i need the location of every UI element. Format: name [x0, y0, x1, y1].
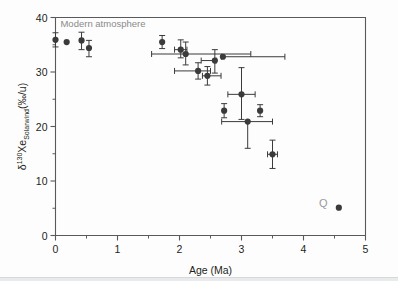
data-point	[221, 104, 227, 118]
data-point	[222, 118, 273, 148]
data-point	[228, 68, 255, 120]
data-point-marker	[212, 57, 218, 63]
data-point-marker	[178, 47, 184, 53]
data-point	[201, 50, 218, 73]
y-axis-title: δ130XeSolarwind(‰/u)	[16, 83, 30, 170]
x-axis-tick-label: 0	[53, 243, 59, 255]
x-axis-tick-label: 4	[301, 243, 307, 255]
data-point-marker	[195, 68, 201, 74]
data-point-marker	[220, 54, 226, 60]
data-point	[268, 140, 278, 168]
data-point	[159, 35, 165, 48]
data-point-marker	[245, 118, 251, 124]
y-axis-tick-label: 40	[36, 12, 48, 24]
y-axis-tick-label: 30	[36, 66, 48, 78]
data-point	[202, 67, 221, 86]
scatter-chart: 012345010203040Age (Ma)δ130XeSolarwind(‰…	[0, 0, 398, 281]
figure-panel: 012345010203040Age (Ma)δ130XeSolarwind(‰…	[0, 0, 398, 281]
data-point-marker	[257, 108, 263, 114]
data-point-marker	[269, 151, 275, 157]
data-point-marker	[86, 45, 92, 51]
data-point	[86, 40, 92, 56]
data-point-marker	[204, 73, 210, 79]
x-axis-title: Age (Ma)	[189, 264, 232, 276]
x-axis-tick-label: 2	[177, 243, 183, 255]
data-point-marker	[78, 37, 84, 43]
data-point	[78, 32, 84, 49]
data-point-marker	[238, 91, 244, 97]
y-axis-tick-label: 20	[36, 121, 48, 133]
data-point	[220, 54, 285, 60]
data-point-marker	[52, 37, 58, 43]
data-point-marker	[64, 39, 70, 45]
y-axis-tick-label: 10	[36, 175, 48, 187]
data-point-marker	[221, 108, 227, 114]
y-axis-tick-label: 0	[42, 230, 48, 242]
data-point	[64, 39, 70, 45]
q-label: Q	[319, 197, 328, 209]
x-axis-tick-label: 3	[239, 243, 245, 255]
data-point-marker	[183, 51, 189, 57]
data-point-marker	[336, 205, 342, 211]
data-point	[257, 105, 263, 117]
data-point-marker	[159, 39, 165, 45]
data-point	[336, 205, 342, 211]
modern-atmosphere-annotation: Modern atmosphere	[60, 18, 145, 29]
x-axis-tick-label: 5	[363, 243, 369, 255]
x-axis-tick-label: 1	[115, 243, 121, 255]
